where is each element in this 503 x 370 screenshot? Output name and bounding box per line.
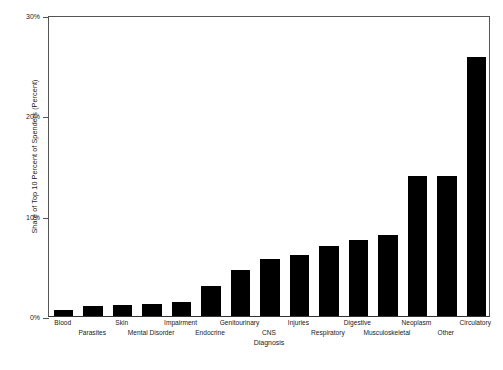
bar <box>319 246 338 316</box>
plot-area: 0% 10% 20% 30% <box>48 16 490 317</box>
bar <box>113 305 132 316</box>
y-tick-label-30: 30% <box>26 13 40 20</box>
bar <box>467 57 486 316</box>
bar <box>201 286 220 316</box>
x-tick-label: Respiratory <box>311 329 345 336</box>
x-tick-label: Impairment <box>164 319 197 326</box>
x-tick-label: Genitourinary <box>220 319 260 326</box>
x-tick-label: Neoplasm <box>401 319 431 326</box>
y-tick-label-20: 20% <box>26 113 40 120</box>
x-tick-label: Parasites <box>78 329 106 336</box>
x-tick-label: Musculoskeletal <box>363 329 410 336</box>
x-tick-label: Skin <box>115 319 128 326</box>
bar-series <box>49 17 489 316</box>
x-tick-label: Blood <box>54 319 71 326</box>
bar <box>349 240 368 316</box>
x-tick-label: Mental Disorder <box>128 329 175 336</box>
bar <box>231 270 250 316</box>
x-tick-label: Digestive <box>344 319 371 326</box>
x-tick-label: Injuries <box>288 319 309 326</box>
y-tick-label-0: 0% <box>30 314 40 321</box>
bar <box>290 255 309 316</box>
x-tick-label: Circulatory <box>460 319 492 326</box>
bar <box>83 306 102 316</box>
bar <box>260 259 279 316</box>
bar <box>172 302 191 316</box>
y-axis-title: Share of Top 10 Percent of Spenders (Per… <box>30 27 39 287</box>
x-tick-label: Other <box>438 329 455 336</box>
x-tick-label: CNS <box>262 329 276 336</box>
y-tick-label-10: 10% <box>26 214 40 221</box>
bar <box>437 176 456 316</box>
x-tick-label: Endocrine <box>195 329 225 336</box>
bar <box>378 235 397 316</box>
bar <box>408 176 427 316</box>
x-axis-title: Diagnosis <box>48 339 490 346</box>
bar-chart: Share of Top 10 Percent of Spenders (Per… <box>0 0 503 370</box>
bar <box>54 310 73 316</box>
bar <box>142 304 161 316</box>
